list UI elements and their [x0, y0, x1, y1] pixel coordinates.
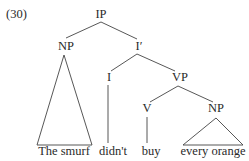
node-np-subject: NP: [58, 39, 74, 53]
node-ip: IP: [95, 7, 106, 21]
tree-branches: [0, 0, 249, 161]
node-v: V: [142, 101, 151, 115]
node-vp: VP: [172, 70, 188, 84]
leaf-aux: didn't: [99, 144, 127, 158]
leaf-verb: buy: [142, 144, 161, 158]
node-i: I: [107, 70, 111, 84]
node-i-bar: I′: [136, 39, 143, 53]
leaf-object: every orange: [181, 144, 246, 158]
leaf-subject: The smurf: [38, 144, 90, 158]
node-np-object: NP: [208, 101, 224, 115]
